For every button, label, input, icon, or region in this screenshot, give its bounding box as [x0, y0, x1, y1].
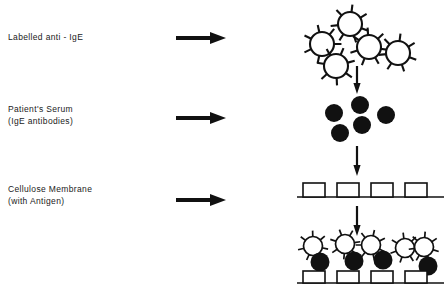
antibody-spike — [402, 64, 405, 72]
labelled-antibody-icon — [298, 231, 328, 260]
antibody-spike — [379, 54, 387, 55]
antibody-spike — [340, 48, 343, 55]
antibody-spike — [379, 238, 385, 241]
antibody-spike — [318, 25, 320, 33]
antibody-spike — [368, 28, 369, 36]
antibody-spike — [331, 25, 339, 26]
arrow-to-patients-serum — [176, 110, 228, 126]
antibody-spike — [373, 230, 374, 236]
antibody-spike — [399, 34, 400, 42]
arrow-to-cellulose-membrane — [176, 192, 228, 208]
antibody-spike — [327, 49, 331, 56]
arrow-shape — [176, 112, 226, 124]
antibody-body — [386, 41, 410, 65]
antibody-spike — [413, 237, 418, 241]
antibody-body — [357, 35, 381, 59]
antibody-spike — [373, 254, 374, 260]
label-patients-serum: Patient's Serum(IgE antibodies) — [8, 103, 73, 127]
antibody-spike — [354, 35, 357, 43]
antibody-spike — [330, 239, 336, 241]
antibody-spike — [320, 236, 325, 240]
arrow-down-stage-3-to-4 — [350, 206, 364, 238]
antibody-spike — [339, 230, 341, 236]
antibody-spike — [361, 28, 369, 31]
antibody-spike — [391, 251, 397, 253]
antibody-spike — [361, 252, 365, 257]
arrow-down-stage-1-to-2 — [350, 66, 364, 96]
antibody-body — [415, 238, 434, 257]
serum-antibody-icon — [331, 124, 349, 142]
label-text-line: Labelled anti - IgE — [8, 31, 83, 43]
assay-diagram: Labelled anti - IgE Patient's Serum(IgE … — [0, 0, 448, 287]
serum-antibody-icon — [345, 252, 364, 271]
antibody-spike — [379, 249, 385, 252]
antibody-spike — [409, 57, 417, 60]
antibody-spike — [409, 248, 415, 249]
antibody-spike — [322, 248, 328, 249]
label-text-line: (IgE antibodies) — [8, 115, 73, 127]
antibody-spike — [347, 61, 355, 63]
antigen-square-icon — [303, 271, 325, 283]
antibody-spike — [318, 55, 320, 63]
labelled-antibody-icon — [409, 232, 439, 262]
serum-antibody-icon — [374, 251, 393, 270]
antibody-body — [362, 236, 381, 255]
antigen-square-icon — [405, 183, 427, 197]
antibody-spike — [307, 254, 310, 260]
label-text-line: Cellulose Membrane — [8, 183, 92, 195]
antibody-spike — [350, 50, 358, 52]
antibody-body — [304, 237, 323, 256]
antigen-square-icon — [405, 271, 427, 283]
label-text-line: Patient's Serum — [8, 103, 73, 115]
antibody-spike — [433, 250, 439, 252]
antibody-spike — [301, 237, 306, 241]
antibody-spike — [329, 29, 334, 35]
antibody-spike — [375, 57, 379, 64]
antibody-spike — [416, 255, 419, 261]
antibody-spike — [339, 34, 343, 41]
antibody-body — [338, 12, 362, 36]
antibody-spike — [304, 49, 311, 52]
antibody-body — [396, 239, 415, 258]
antibody-spike — [317, 63, 325, 64]
antibody-spike — [400, 257, 402, 263]
antibody-spike — [353, 36, 360, 41]
antibody-spike — [329, 53, 334, 59]
arrow-shape — [353, 146, 360, 176]
antibody-spike — [427, 255, 429, 261]
antigen-square-icon — [337, 183, 359, 197]
antibody-spike — [380, 49, 388, 50]
antibody-spike — [317, 254, 320, 260]
antigen-square-icon — [371, 271, 393, 283]
antibody-spike — [431, 238, 436, 242]
antibody-spike — [392, 240, 397, 243]
antigen-square-icon — [371, 183, 393, 197]
labelled-antibody-icon — [350, 28, 388, 65]
antibody-spike — [387, 63, 391, 70]
antibody-spike — [414, 249, 420, 250]
arrow-down-stage-2-to-3 — [350, 146, 364, 178]
antibody-spike — [298, 248, 304, 250]
antigen-square-icon — [337, 271, 359, 283]
antigen-square-icon — [303, 183, 325, 197]
serum-antibody-icon — [311, 253, 330, 272]
arrow-shape — [176, 32, 226, 44]
antibody-spike — [410, 256, 413, 261]
serum-antibody-icon — [325, 104, 343, 122]
antibody-spike — [384, 39, 390, 45]
labelled-antibody-icon — [391, 233, 421, 263]
labelled-antibody-icon — [304, 25, 341, 63]
arrow-to-labelled-anti-ige — [176, 30, 228, 46]
labelled-antibody-icon — [331, 5, 369, 43]
antibody-spike — [411, 237, 415, 242]
arrow-shape — [353, 206, 360, 236]
label-text-line: (with Antigen) — [8, 195, 92, 207]
serum-antibody-icon — [377, 106, 395, 124]
serum-antibody-icon — [419, 257, 438, 276]
antibody-spike — [354, 242, 360, 243]
label-labelled-anti-ige: Labelled anti - IgE — [8, 31, 83, 43]
antibody-spike — [362, 58, 365, 66]
antibody-body — [310, 32, 334, 56]
antibody-spike — [360, 14, 367, 18]
bound-complex-strip — [297, 230, 444, 283]
